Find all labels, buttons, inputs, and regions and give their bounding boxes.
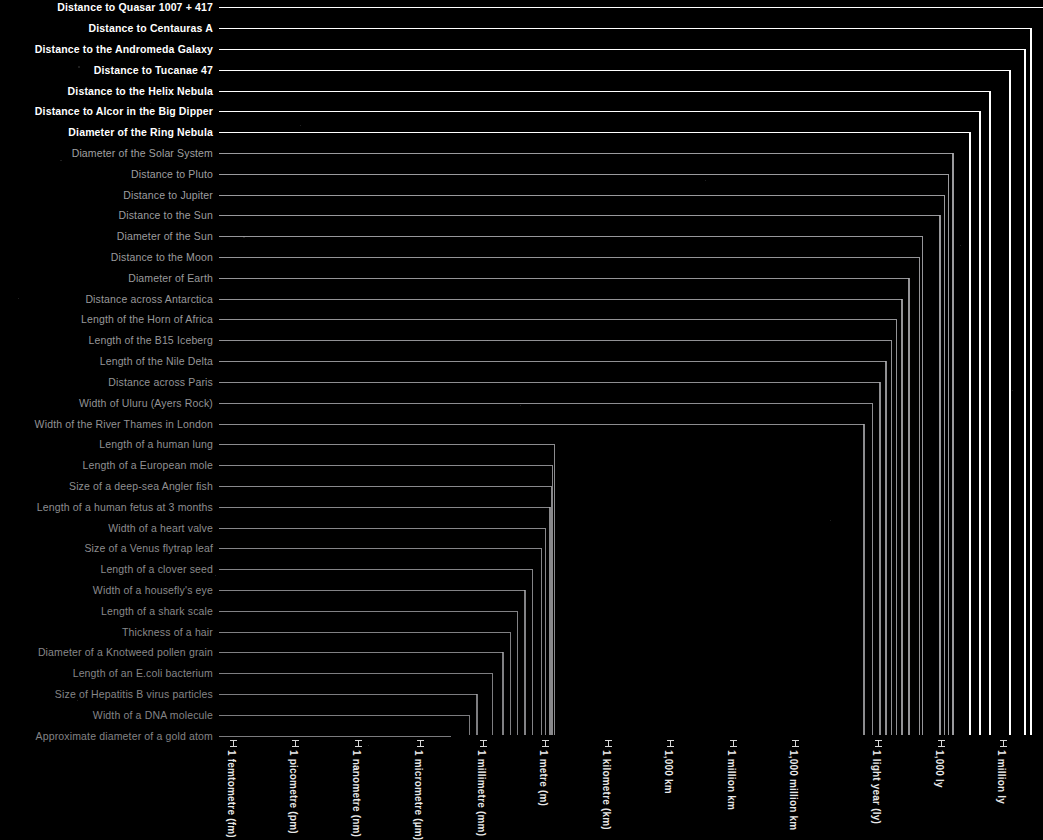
bar-horizontal — [233, 632, 510, 633]
axis-tick-cap — [355, 740, 362, 741]
bar-drop-line — [551, 486, 553, 735]
bar-horizontal — [233, 49, 1025, 50]
axis-tick-cap — [667, 740, 674, 741]
row-leader-line — [219, 569, 233, 570]
bar-drop-line — [939, 215, 941, 735]
row-label: Size of a Venus flytrap leaf — [0, 542, 213, 554]
row-label: Diameter of the Ring Nebula — [0, 126, 213, 138]
row-leader-line — [219, 590, 233, 591]
bar-horizontal — [233, 153, 953, 154]
axis-tick-cap — [417, 746, 424, 747]
axis-tick-label: 1 kilometre (km) — [601, 750, 612, 830]
bar-drop-line — [979, 111, 981, 735]
bar-drop-line — [901, 299, 903, 735]
bar-horizontal — [233, 444, 554, 445]
row-leader-line — [219, 548, 233, 549]
bar-horizontal — [233, 111, 980, 112]
bar-drop-line — [885, 361, 887, 735]
bar-horizontal — [233, 694, 477, 695]
row-label: Width of a DNA molecule — [0, 709, 213, 721]
axis-tick-label: 1,000 ly — [934, 750, 945, 788]
bar-horizontal — [233, 174, 948, 175]
axis-tick-cap — [875, 746, 882, 747]
axis-tick-label: 1 nanometre (nm) — [351, 750, 362, 837]
row-label: Length of a shark scale — [0, 605, 213, 617]
row-leader-line — [219, 319, 233, 320]
row-leader-line — [219, 278, 233, 279]
row-leader-line — [219, 403, 233, 404]
bar-horizontal — [233, 215, 940, 216]
background-speck — [215, 575, 216, 576]
row-leader-line — [219, 673, 233, 674]
bar-horizontal — [233, 507, 550, 508]
axis-tick-cap — [355, 746, 362, 747]
bar-horizontal — [233, 132, 970, 133]
bar-horizontal — [233, 319, 896, 320]
axis-tick-label: 1 picometre (pm) — [288, 750, 299, 834]
background-speck — [960, 245, 961, 246]
bar-drop-line — [863, 424, 865, 736]
row-label: Length of a human fetus at 3 months — [0, 501, 213, 513]
row-label: Length of the Horn of Africa — [0, 313, 213, 325]
axis-tick-cap — [938, 746, 945, 747]
row-label: Distance to Pluto — [0, 168, 213, 180]
row-leader-line — [219, 465, 233, 466]
bar-horizontal — [233, 91, 990, 92]
row-label: Approximate diameter of a gold atom — [0, 730, 213, 742]
axis-tick-label: 1 million km — [726, 750, 737, 810]
bar-drop-line — [510, 632, 511, 735]
axis-tick-cap — [605, 740, 612, 741]
background-speck — [150, 103, 151, 104]
axis-tick-cap — [730, 746, 737, 747]
bar-drop-line — [1009, 70, 1011, 735]
row-label: Width of a housefly's eye — [0, 584, 213, 596]
axis-tick-cap — [480, 746, 487, 747]
bar-drop-line — [502, 652, 503, 735]
bar-drop-line — [922, 236, 924, 735]
row-label: Diameter of the Solar System — [0, 147, 213, 159]
row-leader-line — [219, 528, 233, 529]
axis-tick-cap — [230, 746, 237, 747]
background-speck — [300, 125, 301, 126]
row-label: Distance to Tucanae 47 — [0, 64, 213, 76]
bar-horizontal — [233, 465, 552, 466]
axis-tick-cap — [292, 740, 299, 741]
row-leader-line — [219, 507, 233, 508]
bar-horizontal — [233, 528, 545, 529]
axis-tick-label: 1,000 million km — [788, 750, 799, 830]
background-speck — [77, 700, 78, 701]
axis-tick-cap — [792, 746, 799, 747]
bar-drop-line — [492, 673, 493, 735]
axis-tick-cap — [605, 746, 612, 747]
row-leader-line — [219, 91, 233, 92]
row-leader-line — [219, 340, 233, 341]
row-label: Diameter of Earth — [0, 272, 213, 284]
bar-drop-line — [948, 174, 950, 735]
bar-drop-line — [524, 590, 525, 735]
bar-horizontal — [233, 569, 532, 570]
row-leader-line — [219, 611, 233, 612]
axis-tick-cap — [230, 740, 237, 741]
row-label: Distance across Antarctica — [0, 293, 213, 305]
bar-drop-line — [879, 382, 881, 735]
bar-horizontal — [233, 652, 503, 653]
axis-tick-cap — [667, 746, 674, 747]
bar-horizontal — [233, 611, 517, 612]
row-leader-line — [219, 444, 233, 445]
row-label: Diameter of the Sun — [0, 230, 213, 242]
axis-tick-cap — [417, 740, 424, 741]
bar-horizontal — [233, 715, 469, 716]
row-label: Length of an E.coli bacterium — [0, 667, 213, 679]
background-speck — [60, 160, 62, 161]
bar-horizontal — [233, 382, 880, 383]
bar-drop-line — [891, 340, 893, 735]
row-label: Distance to Jupiter — [0, 189, 213, 201]
axis-tick-cap — [1000, 740, 1007, 741]
axis-tick-cap — [292, 746, 299, 747]
row-label: Diameter of a Knotweed pollen grain — [0, 646, 213, 658]
axis-tick-label: 1 micrometre (µm) — [413, 750, 424, 840]
bar-horizontal — [233, 736, 451, 737]
bar-drop-line — [944, 195, 946, 735]
bar-drop-line — [541, 548, 542, 735]
bar-horizontal — [233, 403, 872, 404]
